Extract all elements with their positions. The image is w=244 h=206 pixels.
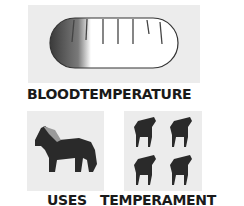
thermometer-pill-icon	[48, 16, 180, 70]
temperament-label: TEMPERAMENT	[100, 192, 216, 206]
draft-horse-icon	[29, 120, 103, 178]
blood-temperature-label: BLOODTEMPERATURE	[27, 86, 191, 102]
four-horses-icon	[128, 115, 200, 187]
uses-label: USES	[47, 192, 87, 206]
